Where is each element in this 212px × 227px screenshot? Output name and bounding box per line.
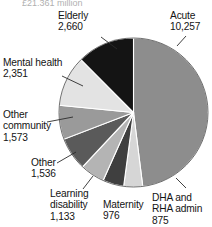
slice-label-mental-health: Mental health 2,351: [3, 57, 62, 80]
pie-slices-group: [59, 38, 208, 187]
slice-label-other-name: Other: [31, 157, 56, 168]
slice-label-other-value: 1,536: [31, 168, 56, 179]
slice-label-acute-name: Acute: [170, 10, 195, 21]
slice-label-maternity-value: 976: [103, 210, 144, 221]
slice-label-mental-health-name: Mental health: [3, 57, 62, 68]
pie-chart-figure: £21,361 million Acute 10,257 DHA and RHA…: [0, 0, 212, 227]
slice-label-dha-rha-admin: DHA and RHA admin 875: [152, 192, 202, 226]
slice-label-elderly-name: Elderly: [58, 10, 88, 21]
leader-line-other: [57, 152, 76, 163]
slice-label-acute-value: 10,257: [170, 21, 200, 32]
leader-line-dha-rha-admin: [176, 178, 186, 188]
slice-label-dha-rha-admin-line2: RHA admin: [152, 203, 202, 214]
slice-label-other-community-value: 1,573: [3, 132, 51, 143]
pie-slice-acute: [134, 38, 208, 186]
slice-label-maternity-name: Maternity: [103, 199, 144, 210]
slice-label-mental-health-value: 2,351: [3, 68, 62, 79]
slice-label-dha-rha-admin-value: 875: [152, 215, 202, 226]
slice-label-maternity: Maternity 976: [103, 199, 144, 222]
slice-label-dha-rha-admin-line1: DHA and: [152, 192, 192, 203]
slice-label-other-community: Other community 1,573: [3, 109, 51, 143]
slice-label-other-community-line2: community: [3, 120, 51, 131]
slice-label-learning-disability-value: 1,133: [50, 211, 88, 222]
slice-label-other: Other 1,536: [31, 157, 56, 180]
slice-label-learning-disability-line2: disability: [50, 199, 88, 210]
leader-line-acute: [177, 36, 186, 46]
slice-label-learning-disability-line1: Learning: [50, 188, 88, 199]
slice-label-elderly: Elderly 2,660: [58, 10, 88, 33]
slice-label-learning-disability: Learning disability 1,133: [50, 188, 88, 222]
slice-label-acute: Acute 10,257: [170, 10, 200, 33]
slice-label-other-community-line1: Other: [3, 109, 28, 120]
slice-label-elderly-value: 2,660: [58, 21, 88, 32]
